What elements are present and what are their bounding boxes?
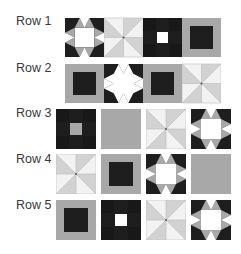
quilt-tile-star-gray — [191, 200, 231, 240]
quilt-tile-nine-patch-white — [143, 17, 182, 58]
quilt-tile-star-gray — [146, 154, 186, 194]
quilt-tile-star-white — [104, 63, 143, 104]
quilt-tile-square-dark-on-gray — [143, 63, 182, 104]
quilt-tile-square-dark-on-gray — [101, 154, 141, 194]
quilt-tile-star-gray — [191, 109, 231, 149]
quilt-tile-nine-patch-white — [101, 200, 141, 240]
quilt-tile-pinwheel — [146, 109, 186, 149]
quilt-tile-square-dark-on-gray — [65, 63, 104, 104]
quilt-tile-square-dark-on-gray — [182, 17, 221, 58]
row-label-1: Row 1 — [16, 14, 51, 28]
row-label-4: Row 4 — [16, 152, 51, 166]
quilt-tile-star-gray — [65, 17, 104, 58]
quilt-tile-pinwheel — [182, 63, 221, 104]
quilt-tile-square-dark-on-gray — [56, 200, 96, 240]
quilt-tile-solid-gray — [191, 154, 231, 194]
row-label-2: Row 2 — [16, 61, 51, 75]
quilt-tile-pinwheel — [56, 154, 96, 194]
quilt-tile-solid-gray — [101, 109, 141, 149]
quilt-tile-nine-patch-gray — [56, 109, 96, 149]
quilt-tile-pinwheel — [104, 17, 143, 58]
quilt-tile-pinwheel — [146, 200, 186, 240]
row-label-5: Row 5 — [16, 198, 51, 212]
row-label-3: Row 3 — [16, 106, 51, 120]
